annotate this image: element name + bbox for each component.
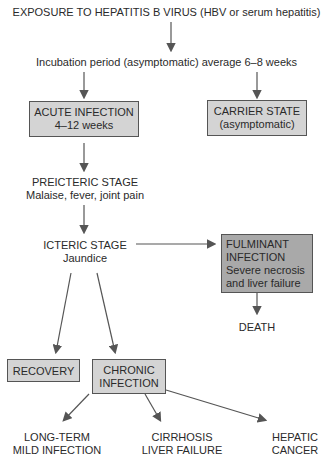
- incubation-label: Incubation period (asymptomatic) average…: [0, 56, 333, 69]
- outcome-cirrhosis-line-2: LIVER FAILURE: [140, 444, 224, 457]
- fulminant-infection-box: FULMINANT INFECTION Severe necrosis and …: [221, 234, 313, 293]
- outcome-cirrhosis-line-1: CIRRHOSIS: [140, 431, 224, 444]
- acute-infection-box: ACUTE INFECTION 4–12 weeks: [29, 101, 139, 137]
- fulminant-title-1: FULMINANT: [226, 238, 308, 251]
- chronic-infection-box: CHRONIC INFECTION: [92, 359, 166, 394]
- outcome-mild-line-2: MILD INFECTION: [10, 444, 104, 457]
- carrier-detail: (asymptomatic): [208, 118, 306, 131]
- arrows-layer: [0, 0, 333, 463]
- preicteric-title: PREICTERIC STAGE: [0, 176, 170, 189]
- outcome-hepatic-cancer: HEPATIC CANCER: [265, 431, 325, 457]
- recovery-label: RECOVERY: [8, 365, 79, 378]
- outcome-cancer-line-2: CANCER: [265, 444, 325, 457]
- exposure-label: EXPOSURE TO HEPATITIS B VIRUS (HBV or se…: [0, 6, 333, 19]
- recovery-box: RECOVERY: [7, 359, 80, 382]
- death-label: DEATH: [220, 321, 294, 334]
- fulminant-title-2: INFECTION: [226, 251, 308, 264]
- acute-title: ACUTE INFECTION: [30, 106, 138, 119]
- icteric-detail: Jaundice: [0, 252, 170, 265]
- carrier-title: CARRIER STATE: [208, 105, 306, 118]
- outcome-mild-line-1: LONG-TERM: [10, 431, 104, 444]
- chronic-line-1: CHRONIC: [93, 364, 165, 377]
- carrier-state-box: CARRIER STATE (asymptomatic): [207, 100, 307, 136]
- icteric-title: ICTERIC STAGE: [0, 239, 170, 252]
- outcome-cirrhosis: CIRRHOSIS LIVER FAILURE: [140, 431, 224, 457]
- fulminant-detail-1: Severe necrosis: [226, 264, 308, 277]
- fulminant-detail-2: and liver failure: [226, 277, 308, 290]
- outcome-cancer-line-1: HEPATIC: [265, 431, 325, 444]
- chronic-line-2: INFECTION: [93, 377, 165, 390]
- outcome-mild-infection: LONG-TERM MILD INFECTION: [10, 431, 104, 457]
- acute-detail: 4–12 weeks: [30, 119, 138, 132]
- preicteric-detail: Malaise, fever, joint pain: [0, 189, 170, 202]
